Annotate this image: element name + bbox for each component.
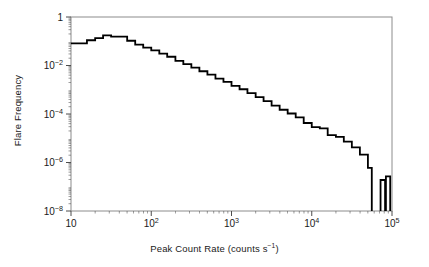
histogram-curve: [71, 35, 372, 211]
y-tick-label-0: 1: [57, 12, 63, 23]
y-tick-label-2: 10−4: [44, 106, 63, 120]
x-tick-label-4: 105: [384, 216, 399, 230]
y-tick-label-4: 10−8: [44, 203, 63, 217]
x-tick-label-3: 104: [304, 216, 319, 230]
isolated-bin-1: [386, 176, 390, 211]
y-tick-label-1: 10−2: [44, 58, 63, 72]
plot-area: 10102103104105110−210−410−610−8: [0, 0, 429, 267]
y-tick-label-3: 10−6: [44, 155, 63, 169]
plot-frame: [71, 17, 392, 211]
isolated-bin-0: [381, 180, 386, 211]
x-tick-label-0: 10: [65, 218, 77, 229]
x-tick-label-1: 102: [144, 216, 159, 230]
flare-frequency-figure: Flare Frequency Peak Count Rate (counts …: [0, 0, 429, 267]
x-tick-label-2: 103: [224, 216, 239, 230]
